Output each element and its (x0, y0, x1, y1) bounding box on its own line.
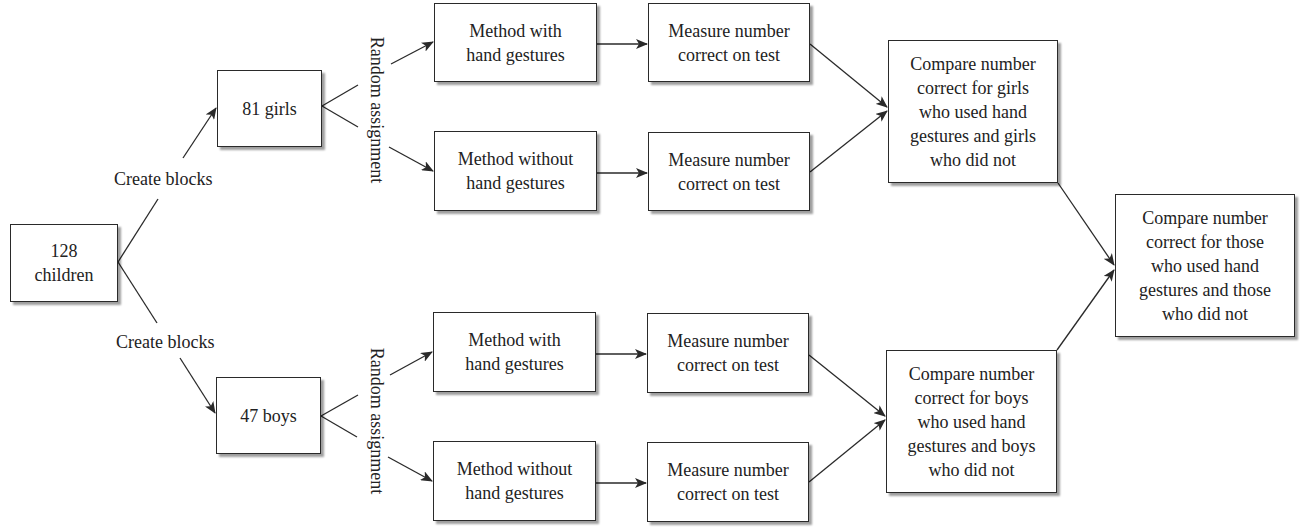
measure-label: Measure number correct on test (668, 19, 789, 67)
measure-box-girls-without-gestures: Measure number correct on test (648, 132, 810, 211)
measure-label: Measure number correct on test (667, 458, 788, 506)
compare-box-boys: Compare number correct for boys who used… (886, 350, 1057, 493)
compare-box-girls: Compare number correct for girls who use… (888, 40, 1058, 183)
treatment-label: Method without hand gestures (457, 457, 573, 505)
treatment-label: Method without hand gestures (458, 147, 574, 195)
treatment-label: Method with hand gestures (465, 328, 563, 376)
start-box-128-children: 128 children (10, 224, 118, 302)
create-blocks-label-upper: Create blocks (114, 168, 212, 190)
treatment-label: Method with hand gestures (466, 19, 564, 67)
measure-label: Measure number correct on test (667, 329, 788, 377)
final-compare-label: Compare number correct for those who use… (1139, 206, 1271, 326)
measure-box-boys-with-gestures: Measure number correct on test (647, 313, 809, 393)
start-box-label: 128 children (35, 239, 94, 287)
treatment-box-boys-with-gestures: Method with hand gestures (433, 312, 596, 392)
treatment-box-girls-with-gestures: Method with hand gestures (434, 3, 597, 82)
block-box-boys: 47 boys (216, 377, 321, 454)
block-girls-label: 81 girls (242, 97, 297, 121)
block-boys-label: 47 boys (240, 404, 297, 428)
compare-girls-label: Compare number correct for girls who use… (910, 52, 1036, 172)
measure-label: Measure number correct on test (668, 148, 789, 196)
treatment-box-boys-without-gestures: Method without hand gestures (433, 441, 596, 521)
create-blocks-label-lower: Create blocks (116, 331, 214, 353)
final-compare-box: Compare number correct for those who use… (1115, 194, 1295, 337)
random-assignment-label-girls: Random assignment (366, 20, 388, 200)
random-assignment-label-boys: Random assignment (366, 331, 388, 511)
measure-box-girls-with-gestures: Measure number correct on test (648, 3, 810, 82)
measure-box-boys-without-gestures: Measure number correct on test (647, 442, 809, 522)
compare-boys-label: Compare number correct for boys who used… (908, 362, 1036, 482)
block-box-girls: 81 girls (217, 70, 322, 147)
treatment-box-girls-without-gestures: Method without hand gestures (434, 131, 597, 211)
block-design-diagram: 128 children Create blocks Create blocks… (0, 0, 1300, 530)
